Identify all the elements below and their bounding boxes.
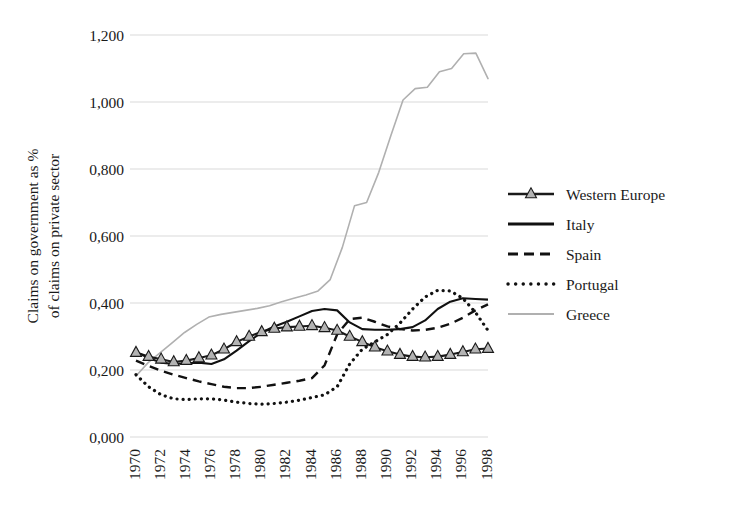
legend-item-spain[interactable]: Spain	[508, 246, 602, 263]
y-tick-label: 0,600	[89, 228, 124, 245]
x-tick-label: 1988	[352, 449, 369, 480]
x-tick-label: 1986	[327, 449, 344, 480]
legend: Western EuropeItalySpainPortugalGreece	[508, 186, 665, 323]
legend-item-portugal[interactable]: Portugal	[508, 276, 619, 293]
x-tick-label: 1992	[402, 449, 419, 480]
y-tick-label: 0,200	[89, 362, 124, 379]
legend-label: Italy	[566, 216, 595, 233]
x-axis-ticks: 1970197219741976197819801982198419861988…	[126, 449, 495, 480]
x-tick-label: 1982	[276, 449, 293, 480]
legend-item-italy[interactable]: Italy	[508, 216, 595, 233]
legend-label: Western Europe	[566, 186, 665, 203]
y-tick-label: 1,000	[89, 94, 124, 111]
data-point-marker	[307, 320, 318, 330]
x-tick-label: 1980	[251, 449, 268, 480]
x-tick-label: 1976	[201, 449, 218, 480]
x-tick-label: 1990	[377, 449, 394, 480]
x-tick-label: 1970	[126, 449, 143, 480]
series-line-spain	[136, 304, 488, 388]
y-tick-label: 0,000	[89, 429, 124, 446]
legend-label: Greece	[566, 306, 610, 323]
x-tick-label: 1978	[226, 449, 243, 480]
data-point-marker	[483, 342, 494, 352]
x-tick-label: 1998	[478, 449, 495, 480]
y-tick-label: 1,200	[89, 27, 124, 44]
western-europe-markers	[131, 320, 494, 366]
x-tick-label: 1996	[452, 449, 469, 480]
x-tick-label: 1994	[427, 449, 444, 480]
series-group	[136, 53, 488, 404]
x-tick-label: 1974	[176, 449, 193, 480]
y-axis-title: Claims on government as %of claims on pr…	[24, 149, 62, 324]
legend-label: Spain	[566, 246, 602, 263]
legend-item-western-europe[interactable]: Western Europe	[508, 186, 665, 203]
series-line-portugal	[136, 290, 488, 404]
line-chart: 1,2001,0000,8000,6000,4000,2000,00019701…	[0, 0, 740, 523]
chart-figure: 1,2001,0000,8000,6000,4000,2000,00019701…	[0, 0, 740, 523]
y-tick-label: 0,800	[89, 161, 124, 178]
y-tick-label: 0,400	[89, 295, 124, 312]
x-tick-label: 1984	[302, 449, 319, 480]
y-axis-title-line: of claims on private sector	[45, 153, 62, 318]
y-axis-ticks: 1,2001,0000,8000,6000,4000,2000,000	[89, 27, 124, 446]
data-point-marker	[131, 346, 142, 356]
legend-label: Portugal	[566, 276, 619, 293]
legend-item-greece[interactable]: Greece	[508, 306, 610, 323]
x-tick-label: 1972	[151, 449, 168, 480]
y-axis-title-line: Claims on government as %	[24, 149, 41, 324]
